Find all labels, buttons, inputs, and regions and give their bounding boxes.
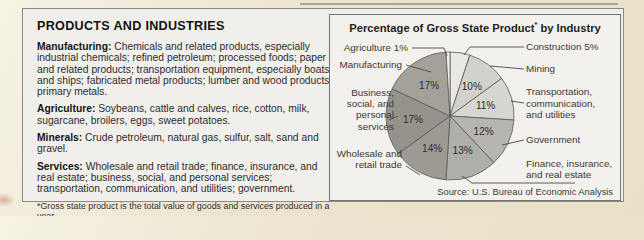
pie-callout-line: Manufacturing [339, 59, 402, 70]
pie-callout-line: communication, [526, 98, 595, 110]
pie-callout-line: Government [526, 134, 580, 145]
pie-callout-mining: Mining [526, 63, 555, 74]
industry-section: Agriculture: Soybeans, cattle and calves… [37, 103, 336, 126]
leader-line [464, 47, 524, 55]
pie-percent-label: 10% [462, 81, 482, 92]
pie-callout-line: personal [347, 109, 394, 120]
section-heading: PRODUCTS AND INDUSTRIES [37, 19, 336, 33]
industry-section: Manufacturing: Chemicals and related pro… [37, 41, 336, 97]
products-industries-box: PRODUCTS AND INDUSTRIES Manufacturing: C… [22, 8, 624, 202]
pie-callout-line: Business, [347, 87, 394, 98]
pie-percent-label: 11% [476, 100, 495, 111]
pie-callout-line: and utilities [526, 109, 595, 121]
industry-section: Services: Wholesale and retail trade; fi… [37, 161, 336, 195]
industry-section-label: Minerals: [37, 132, 82, 143]
pie-callout-agriculture: Agriculture 1% [344, 42, 408, 53]
industry-section-label: Services: [37, 161, 83, 172]
pie-callout-construction: Construction 5% [526, 41, 598, 52]
pie-callout-government: Government [526, 134, 580, 145]
pie-percent-label: 14% [422, 143, 442, 154]
pie-callout-line: social, and [347, 98, 394, 109]
scan-red-artifact [0, 193, 15, 207]
industry-section-label: Agriculture: [37, 103, 95, 114]
pie-callout-finance: Finance, insurance,and real estate [526, 159, 612, 181]
pie-percent-label: 12% [474, 126, 494, 137]
pie-callout-line: Construction 5% [526, 41, 598, 52]
pie-callout-line: Transportation, [526, 86, 595, 98]
left-text-column: PRODUCTS AND INDUSTRIES Manufacturing: C… [37, 19, 336, 216]
pie-callout-transportation: Transportation,communication,and utiliti… [526, 86, 595, 121]
pie-percent-label: 13% [453, 145, 473, 156]
industry-section: Minerals: Crude petroleum, natural gas, … [37, 132, 336, 155]
pie-callout-wholesale-and-retail-trade: Wholesale andretail trade [337, 149, 402, 171]
pie-callout-manufacturing: Manufacturing [339, 59, 402, 70]
industry-sections: Manufacturing: Chemicals and related pro… [37, 41, 336, 195]
pie-percent-label: 17% [419, 80, 439, 91]
pie-callout-line: and real estate [526, 170, 612, 181]
industry-section-label: Manufacturing: [37, 41, 111, 52]
leader-line [490, 66, 524, 69]
gross-state-product-footnote: *Gross state product is the total value … [37, 201, 336, 216]
page-top-rule [300, 3, 618, 5]
pie-percent-label: 17% [403, 114, 423, 125]
pie-callout-business: Business,social, andpersonalservices [347, 87, 394, 132]
pie-callout-line: Agriculture 1% [344, 42, 408, 53]
pie-callout-line: Mining [526, 63, 555, 74]
chart-panel: Percentage of Gross State Product* by In… [329, 14, 621, 201]
pie-callout-line: retail trade [337, 160, 402, 171]
chart-source: Source: U.S. Bureau of Economic Analysis [437, 187, 613, 197]
pie-callout-line: services [347, 121, 394, 132]
